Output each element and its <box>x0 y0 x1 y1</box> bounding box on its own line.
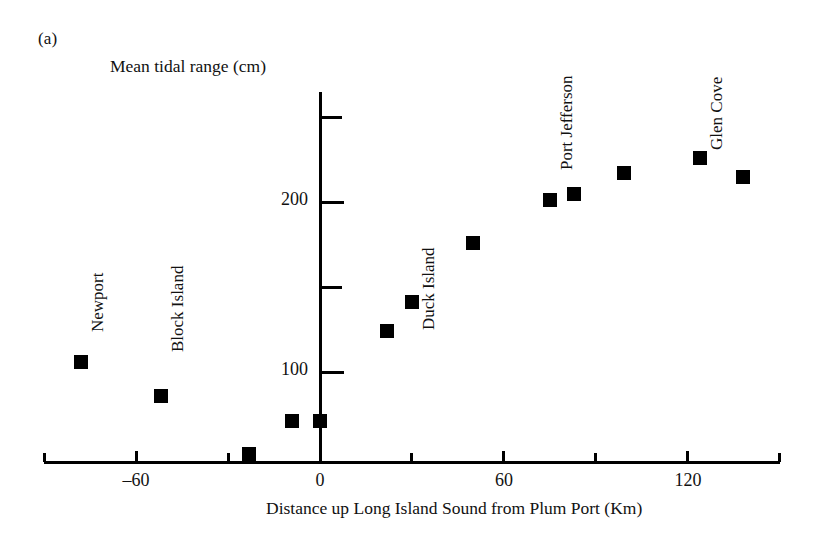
station-label: Duck Island <box>419 247 439 330</box>
x-tick <box>410 453 413 462</box>
data-point <box>693 151 707 165</box>
x-tick <box>135 451 138 462</box>
station-label: Newport <box>88 273 108 332</box>
data-point <box>543 193 557 207</box>
chart-canvas: (a) Mean tidal range (cm) Distance up Lo… <box>0 0 813 539</box>
x-tick-label: –60 <box>106 470 166 491</box>
x-tick <box>227 453 230 462</box>
y-tick <box>320 371 344 374</box>
y-tick <box>320 116 342 119</box>
data-point <box>466 236 480 250</box>
station-label: Block Island <box>168 266 188 352</box>
x-tick <box>686 451 689 462</box>
y-tick <box>320 201 344 204</box>
data-point <box>242 447 256 461</box>
data-point <box>380 324 394 338</box>
y-axis-title: Mean tidal range (cm) <box>110 56 266 77</box>
data-point <box>405 295 419 309</box>
x-axis-title: Distance up Long Island Sound from Plum … <box>266 498 642 519</box>
x-tick-label: 0 <box>290 470 350 491</box>
x-tick-label: 60 <box>474 470 534 491</box>
y-axis-line <box>319 92 322 463</box>
data-point <box>617 166 631 180</box>
x-tick <box>594 453 597 462</box>
y-tick <box>320 286 342 289</box>
data-point <box>74 355 88 369</box>
data-point <box>285 414 299 428</box>
data-point <box>567 187 581 201</box>
x-tick <box>43 453 46 462</box>
x-tick <box>319 451 322 462</box>
x-tick <box>502 451 505 462</box>
data-point <box>154 389 168 403</box>
data-point <box>313 414 327 428</box>
x-tick <box>778 453 781 462</box>
station-label: Port Jefferson <box>557 75 577 170</box>
panel-label: (a) <box>38 29 57 49</box>
y-tick-label: 100 <box>246 359 308 380</box>
station-label: Glen Cove <box>707 77 727 150</box>
data-point <box>736 170 750 184</box>
y-tick-label: 200 <box>246 189 308 210</box>
x-tick-label: 120 <box>658 470 718 491</box>
